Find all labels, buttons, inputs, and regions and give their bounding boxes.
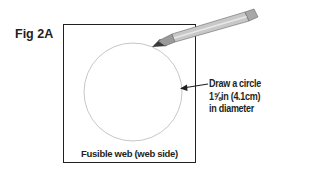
drawn-circle [84, 43, 182, 141]
note-line-3: in diameter [209, 103, 261, 116]
arrow-left-icon [180, 84, 208, 91]
pencil-icon [152, 9, 258, 47]
figure-caption: Fusible web (web side) [63, 148, 196, 159]
note-line-1: Draw a circle [209, 78, 261, 91]
note-line-2: 1⅝in (4.1cm) [209, 91, 261, 104]
fusible-web-square [64, 25, 196, 163]
instruction-note: Draw a circle 1⅝in (4.1cm) in diameter [209, 78, 261, 116]
